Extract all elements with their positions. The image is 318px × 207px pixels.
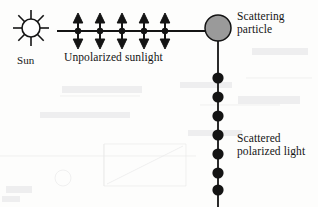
scattering-particle-label-line-1: Scattering bbox=[237, 10, 285, 23]
sun-label: Sun bbox=[17, 54, 34, 67]
polarization-dot bbox=[212, 91, 223, 102]
scattered-light-label-line-2: polarized light bbox=[237, 145, 305, 158]
polarization-dot bbox=[212, 110, 223, 121]
scattering-particle bbox=[205, 15, 231, 41]
polarization-dot bbox=[212, 167, 223, 178]
polarization-dot bbox=[212, 129, 223, 140]
unpolarized-sunlight-label: Unpolarized sunlight bbox=[64, 51, 163, 64]
scattering-particle-label: Scattering particle bbox=[237, 10, 285, 35]
sun-icon bbox=[13, 10, 49, 46]
polarization-dot bbox=[212, 184, 223, 195]
polarization-dot bbox=[212, 148, 223, 159]
scattering-particle-label-line-2: particle bbox=[237, 23, 285, 36]
polarization-dot bbox=[212, 72, 223, 83]
diagram-canvas: Sun Unpolarized sunlight Scattering part… bbox=[0, 0, 318, 207]
scattered-polarized-light-label: Scattered polarized light bbox=[237, 132, 305, 157]
scattered-light-label-line-1: Scattered bbox=[237, 132, 305, 145]
